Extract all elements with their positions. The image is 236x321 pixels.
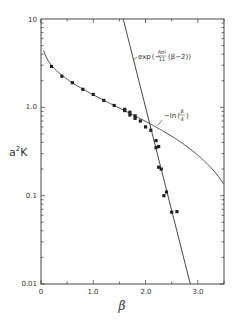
data-point — [157, 145, 160, 148]
y-tick-10: 10 — [28, 16, 37, 24]
data-point — [170, 211, 173, 214]
data-point — [123, 109, 126, 112]
y-tick-0-01: 0.01 — [21, 280, 37, 288]
data-point — [102, 99, 105, 102]
annotation-ln: −ln( β 4 ) — [158, 108, 189, 125]
svg-text:11: 11 — [159, 56, 165, 62]
data-point — [134, 117, 137, 120]
x-tick-1: 1.0 — [87, 288, 98, 296]
data-point — [144, 125, 147, 128]
axis-ticks — [41, 19, 224, 284]
y-axis-label: a2K — [9, 145, 28, 159]
data-point — [128, 113, 131, 116]
y-tick-1: 1.0 — [26, 103, 37, 111]
annotation-exp: exp(− 6π² 11 (β−2)) — [133, 49, 191, 62]
y-tick-0-1: 0.1 — [26, 192, 37, 200]
data-point — [50, 65, 53, 68]
svg-text:(β−2)): (β−2)) — [168, 53, 191, 61]
data-points — [50, 65, 179, 214]
svg-text:a2K: a2K — [9, 145, 28, 159]
data-point — [81, 88, 84, 91]
model-curves — [44, 19, 224, 284]
x-tick-3: 3.0 — [192, 288, 203, 296]
data-point — [154, 139, 157, 142]
data-point — [139, 119, 142, 122]
data-point — [175, 210, 178, 213]
svg-text:): ) — [186, 112, 189, 120]
data-point — [149, 129, 152, 132]
data-point — [92, 93, 95, 96]
svg-text:β: β — [180, 108, 183, 115]
svg-text:4: 4 — [180, 116, 183, 122]
data-point — [60, 75, 63, 78]
data-point — [113, 104, 116, 107]
plot-frame — [41, 19, 224, 284]
x-tick-0: 0 — [39, 288, 43, 296]
data-point — [165, 190, 168, 193]
x-tick-2: 2.0 — [140, 288, 151, 296]
svg-text:6π²: 6π² — [158, 49, 166, 55]
x-axis-label: β — [118, 299, 126, 313]
svg-text:−ln(: −ln( — [164, 112, 180, 120]
data-point — [71, 81, 74, 84]
chart: 0 1.0 2.0 3.0 10 1.0 0.1 0.01 β a2K exp(… — [0, 0, 236, 321]
data-point — [162, 194, 165, 197]
data-point — [160, 167, 163, 170]
